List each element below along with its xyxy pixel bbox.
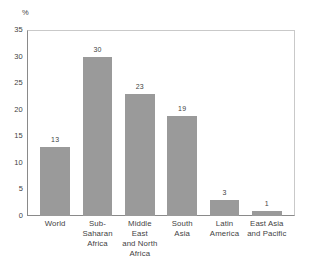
x-label-line: Latin xyxy=(204,219,244,229)
y-tick-label: 10 xyxy=(14,159,23,167)
bar-value-label: 30 xyxy=(83,46,113,54)
bar-middle-east-and-north-africa[interactable]: 23 xyxy=(125,94,155,216)
x-label-line: Middle East xyxy=(120,219,160,239)
x-label-line: Africa xyxy=(77,239,117,249)
bar-value-label: 3 xyxy=(210,189,240,197)
bar-sub-saharan-africa[interactable]: 30 xyxy=(83,57,113,216)
y-tick-label: 0 xyxy=(19,212,23,220)
x-label-middle-east-and-north-africa: Middle East and North Africa xyxy=(119,219,161,264)
bars-area: 13 30 23 19 3 1 xyxy=(28,31,294,216)
x-label-line: Sub- xyxy=(77,219,117,229)
x-label-line: World xyxy=(35,219,75,229)
bar-slot: 13 xyxy=(34,31,76,216)
x-label-east-asia-and-pacific: East Asia and Pacific xyxy=(246,219,288,264)
bar-world[interactable]: 13 xyxy=(40,147,70,216)
bar-slot: 3 xyxy=(203,31,245,216)
y-tick-label: 5 xyxy=(19,185,23,193)
bar-east-asia-and-pacific[interactable]: 1 xyxy=(252,211,282,216)
bar-slot: 30 xyxy=(76,31,118,216)
x-label-line: South xyxy=(162,219,202,229)
bar-latin-america[interactable]: 3 xyxy=(210,200,240,216)
x-label-latin-america: Latin America xyxy=(203,219,245,264)
x-label-world: World xyxy=(34,219,76,264)
x-label-south-asia: South Asia xyxy=(161,219,203,264)
bar-value-label: 13 xyxy=(40,136,70,144)
x-label-line: and Pacific xyxy=(247,229,287,239)
bar-value-label: 19 xyxy=(167,105,197,113)
x-label-line: and North xyxy=(120,239,160,249)
y-axis: 0 5 10 15 20 25 30 35 xyxy=(0,30,27,216)
bar-value-label: 23 xyxy=(125,83,155,91)
y-tick-label: 30 xyxy=(14,53,23,61)
bar-chart: % 0 5 10 15 20 25 30 35 13 30 23 19 xyxy=(0,0,316,266)
x-label-line: East Asia xyxy=(247,219,287,229)
x-label-line: Saharan xyxy=(77,229,117,239)
bar-slot: 19 xyxy=(161,31,203,216)
y-tick-label: 20 xyxy=(14,106,23,114)
y-axis-unit-label: % xyxy=(22,8,29,17)
bar-slot: 23 xyxy=(119,31,161,216)
y-tick-label: 25 xyxy=(14,79,23,87)
bar-value-label: 1 xyxy=(252,200,282,208)
x-axis: World Sub- Saharan Africa Middle East an… xyxy=(28,219,294,264)
x-label-line: America xyxy=(204,229,244,239)
y-tick-label: 15 xyxy=(14,132,23,140)
bar-south-asia[interactable]: 19 xyxy=(167,116,197,216)
x-label-line: Asia xyxy=(162,229,202,239)
y-tick-label: 35 xyxy=(14,26,23,34)
x-label-sub-saharan-africa: Sub- Saharan Africa xyxy=(76,219,118,264)
bar-slot: 1 xyxy=(246,31,288,216)
x-label-line: Africa xyxy=(120,249,160,259)
